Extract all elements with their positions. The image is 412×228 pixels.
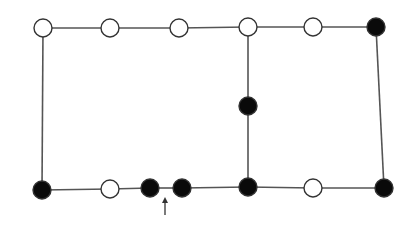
filled-node-icon [375,179,393,197]
edge-line [182,187,248,188]
open-node-icon [170,19,188,37]
pointer-arrow-icon [162,197,168,215]
filled-node-icon [239,178,257,196]
open-node-icon [304,179,322,197]
open-node-icon [34,19,52,37]
filled-node-icon [367,18,385,36]
filled-node-icon [33,181,51,199]
nodes-group [33,18,393,199]
edge-line [248,187,313,188]
open-node-icon [239,18,257,36]
edges-group [42,27,384,190]
edge-line [179,27,248,28]
filled-node-icon [239,97,257,115]
edge-line [376,27,384,188]
filled-node-icon [141,179,159,197]
open-node-icon [101,180,119,198]
arrow-head [162,197,168,203]
filled-node-icon [173,179,191,197]
edge-line [42,28,43,190]
diagram-canvas [0,0,412,228]
edge-line [42,189,110,190]
open-node-icon [304,18,322,36]
open-node-icon [101,19,119,37]
